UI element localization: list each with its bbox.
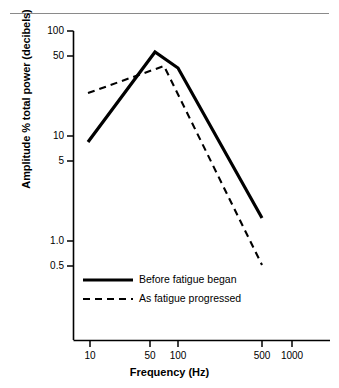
figure-container: 100 50 10 5 1.0 0.5 10 50 100 500 1000 A…: [0, 0, 339, 388]
x-axis-title: Frequency (Hz): [0, 366, 339, 378]
y-tick-label-5: 5: [34, 155, 64, 166]
y-tick-marks: [67, 31, 74, 266]
y-tick-label-50: 50: [34, 50, 64, 61]
x-tick-label-1000: 1000: [274, 350, 310, 361]
y-tick-label-100: 100: [34, 25, 64, 36]
x-tick-label-10: 10: [75, 350, 105, 361]
y-tick-label-1-0: 1.0: [30, 235, 64, 246]
x-tick-label-50: 50: [135, 350, 165, 361]
series-line-before-fatigue: [88, 52, 262, 218]
x-tick-label-100: 100: [162, 350, 194, 361]
y-axis-title: Amplitude % total power (decibels): [15, 0, 37, 209]
x-tick-marks: [90, 341, 292, 348]
series-line-as-fatigue-progressed: [88, 66, 262, 265]
y-tick-label-10: 10: [34, 130, 64, 141]
legend-label-before-fatigue: Before fatigue began: [139, 273, 237, 285]
y-tick-label-0-5: 0.5: [30, 260, 64, 271]
y-axis-title-text: Amplitude % total power (decibels): [20, 9, 32, 188]
legend-label-as-fatigue-progressed: As fatigue progressed: [139, 292, 241, 304]
